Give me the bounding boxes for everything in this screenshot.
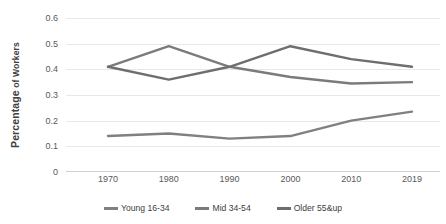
y-tick-label: 0.1 [45,141,58,151]
legend-item[interactable]: Young 16-34 [104,203,169,213]
legend-swatch-icon [195,207,209,210]
y-tick-label: 0.6 [45,13,58,23]
series-line [108,112,412,139]
y-axis-tick-labels: 00.10.20.30.40.50.6 [30,0,62,190]
line-chart: Percentage of Workers 00.10.20.30.40.50.… [0,0,446,224]
legend-label: Young 16-34 [121,203,169,213]
legend-item[interactable]: Mid 34-54 [195,203,250,213]
y-axis-title-main: Percentage [9,90,21,148]
y-axis-title-sub: of Workers [11,42,21,90]
x-tick-label: 1970 [98,174,118,184]
y-tick-label: 0.2 [45,116,58,126]
x-tick-label: 2010 [341,174,361,184]
legend-label: Mid 34-54 [212,203,250,213]
legend-label: Older 55&up [294,203,342,213]
legend-swatch-icon [104,207,118,210]
legend-item[interactable]: Older 55&up [277,203,342,213]
series-line [108,46,412,83]
y-tick-label: 0.3 [45,90,58,100]
plot-area [66,18,440,172]
x-tick-label: 2000 [280,174,300,184]
series-lines [66,18,440,172]
y-axis-title: Percentage of Workers [0,0,30,190]
legend-swatch-icon [277,207,291,210]
chart-legend: Young 16-34Mid 34-54Older 55&up [0,198,446,218]
x-tick-label: 1990 [220,174,240,184]
x-tick-label: 1980 [159,174,179,184]
y-tick-label: 0 [53,167,58,177]
y-tick-label: 0.5 [45,39,58,49]
x-tick-label: 2019 [402,174,422,184]
x-axis-tick-labels: 197019801990200020102019 [66,174,440,192]
y-tick-label: 0.4 [45,64,58,74]
